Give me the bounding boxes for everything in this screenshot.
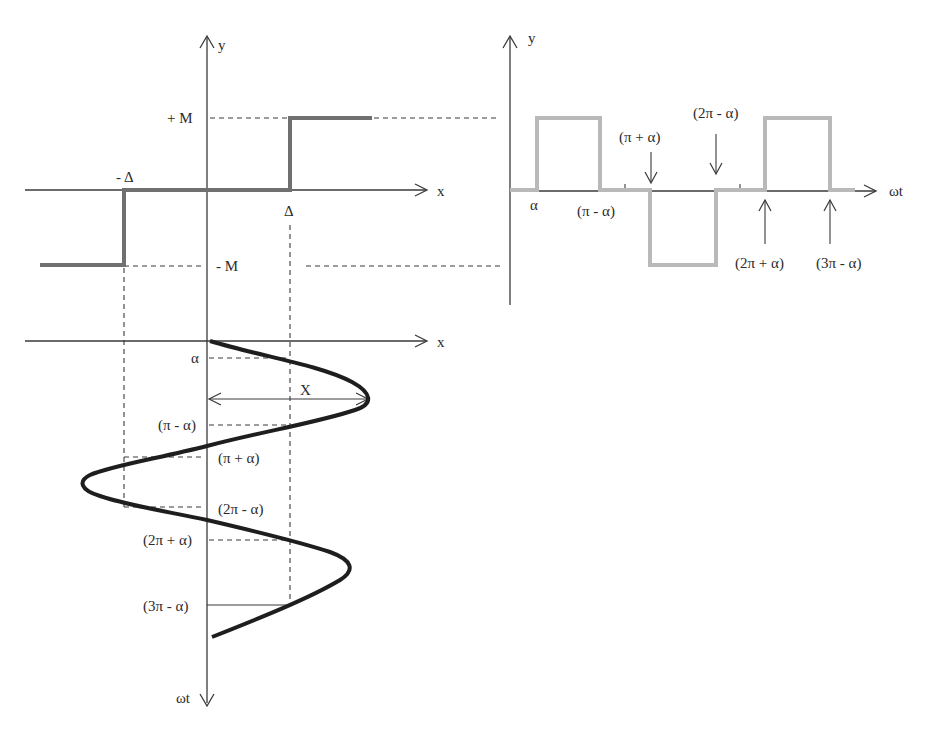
input-alpha-label: α [191, 350, 199, 366]
input-pi-plus-alpha-label: (π + α) [218, 450, 259, 467]
nonlinearity-plot: y x + M - M - Δ Δ [25, 36, 500, 703]
minus-m-label: - M [216, 258, 238, 274]
y-axis-label: y [218, 37, 226, 53]
output-y-axis-label: y [528, 30, 536, 46]
input-x-axis-label: x [437, 334, 445, 350]
output-time-axis-label: ωt [889, 183, 904, 199]
relay-dead-zone-diagram: y x + M - M - Δ Δ x ωt [0, 0, 933, 735]
output-pi-minus-alpha-label: (π - α) [577, 203, 615, 220]
output-pi-plus-alpha-label: (π + α) [619, 129, 660, 146]
amplitude-label: X [300, 382, 311, 398]
input-three-pi-minus-alpha-label: (3π - α) [143, 598, 188, 615]
output-three-pi-minus-alpha-label: (3π - α) [816, 255, 861, 272]
output-alpha-label: α [530, 197, 538, 213]
plus-m-label: + M [167, 110, 193, 126]
input-sinusoid-plot: x ωt X α (π - α) (π + α) (2π - α) (2π + … [25, 334, 445, 706]
input-pi-minus-alpha-label: (π - α) [158, 417, 196, 434]
relay-characteristic-curve [40, 118, 372, 265]
input-two-pi-plus-alpha-label: (2π + α) [143, 532, 192, 549]
output-two-pi-plus-alpha-label: (2π + α) [735, 255, 784, 272]
plus-delta-label: Δ [284, 203, 294, 219]
time-axis-label: ωt [176, 690, 191, 706]
output-two-pi-minus-alpha-label: (2π - α) [693, 105, 738, 122]
input-two-pi-minus-alpha-label: (2π - α) [218, 501, 263, 518]
minus-delta-label: - Δ [116, 169, 134, 185]
input-sinusoid-curve [83, 341, 369, 637]
x-axis-label: x [437, 183, 445, 199]
output-waveform-plot: y ωt α (π - α) (π + α) (2π - α) (2π + α)… [503, 30, 904, 305]
